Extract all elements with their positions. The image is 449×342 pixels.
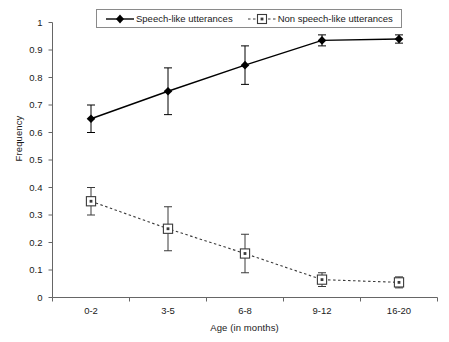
y-axis-tick-label: 0.6 (13, 127, 43, 138)
data-point-marker-diamond (395, 35, 404, 44)
data-point-marker-square-center (321, 278, 324, 281)
y-axis-tick-label: 0.9 (13, 44, 43, 55)
legend-label-non-speech-like: Non speech-like utterances (278, 14, 393, 24)
series-speech-like (87, 35, 404, 133)
x-axis-title: Age (in months) (52, 322, 437, 333)
x-axis-tick-label: 0-2 (61, 305, 121, 316)
y-axis-tick-label: 1 (13, 17, 43, 28)
y-axis-tick-label: 0.3 (13, 209, 43, 220)
legend-entry-non-speech-like: Non speech-like utterances (247, 13, 393, 25)
x-axis-tick-label: 3-5 (138, 305, 198, 316)
data-point-marker-diamond (164, 87, 173, 96)
y-axis-tick-label: 0.5 (13, 154, 43, 165)
legend-label-speech-like: Speech-like utterances (136, 14, 233, 24)
y-axis-tick-label: 0.8 (13, 72, 43, 83)
y-axis-tick-label: 0.2 (13, 237, 43, 248)
data-point-marker-diamond (241, 61, 250, 70)
legend-entry-speech-like: Speech-like utterances (105, 13, 233, 25)
data-point-marker-square-center (398, 281, 401, 284)
y-axis-ticks (49, 23, 53, 298)
y-axis-tick-label: 0.4 (13, 182, 43, 193)
y-axis-tick-label: 0.7 (13, 99, 43, 110)
data-point-marker-square-center (167, 227, 170, 230)
series-non-speech-like (86, 188, 403, 288)
chart-legend: Speech-like utterances Non speech-like u… (96, 9, 402, 28)
data-point-marker-square-center (90, 200, 93, 203)
data-point-marker-diamond (87, 114, 96, 123)
x-axis-tick-label: 9-12 (292, 305, 352, 316)
y-axis-tick-label: 0 (13, 292, 43, 303)
data-series-layer (86, 35, 403, 288)
plot-canvas (0, 0, 449, 342)
data-point-marker-diamond (318, 36, 327, 45)
legend-marker-filled-diamond-icon (105, 13, 135, 25)
chart-figure: Frequency Age (in months) 00.10.20.30.40… (0, 0, 449, 342)
data-point-marker-square-center (244, 252, 247, 255)
y-axis-tick-label: 0.1 (13, 264, 43, 275)
legend-marker-open-square-icon (247, 13, 277, 25)
x-axis-ticks (53, 298, 438, 302)
x-axis-tick-label: 6-8 (215, 305, 275, 316)
x-axis-tick-label: 16-20 (369, 305, 429, 316)
